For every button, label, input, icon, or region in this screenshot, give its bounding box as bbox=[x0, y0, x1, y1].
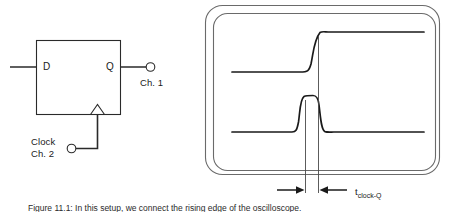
scope-group bbox=[206, 6, 440, 194]
ch2-probe-terminal bbox=[67, 144, 76, 153]
clock-input-wire bbox=[76, 115, 98, 149]
clock-edge-triangle-icon bbox=[91, 105, 105, 115]
clock-trace bbox=[232, 96, 424, 133]
clock-probe-label: Clock Ch. 2 bbox=[31, 136, 55, 159]
delay-dimension-annotation bbox=[277, 186, 347, 194]
q-output-label: Q bbox=[106, 61, 114, 72]
scope-inner-bezel bbox=[214, 14, 436, 171]
figure-root: D Q Ch. 1 Clock Ch. 2 tclock-Q Figure 11… bbox=[0, 0, 449, 212]
dimension-left-arrowhead bbox=[296, 186, 305, 194]
figure-vector-canvas bbox=[0, 0, 449, 212]
d-input-label: D bbox=[43, 61, 50, 72]
clock-to-q-delay-label: tclock-Q bbox=[355, 186, 381, 201]
ch1-probe-terminal bbox=[146, 63, 155, 72]
scope-outer-bezel bbox=[206, 6, 440, 175]
q-output-trace bbox=[232, 32, 424, 72]
figure-caption: Figure 11.1: In this setup, we connect t… bbox=[28, 203, 428, 212]
clock-probe-label-line1: Clock bbox=[31, 136, 55, 148]
dimension-right-arrowhead bbox=[320, 186, 329, 194]
ch1-probe-label: Ch. 1 bbox=[140, 77, 163, 88]
d-flip-flop-body bbox=[37, 41, 121, 115]
clock-probe-label-line2: Ch. 2 bbox=[31, 148, 55, 160]
delay-symbol-subscript: clock-Q bbox=[358, 192, 382, 199]
